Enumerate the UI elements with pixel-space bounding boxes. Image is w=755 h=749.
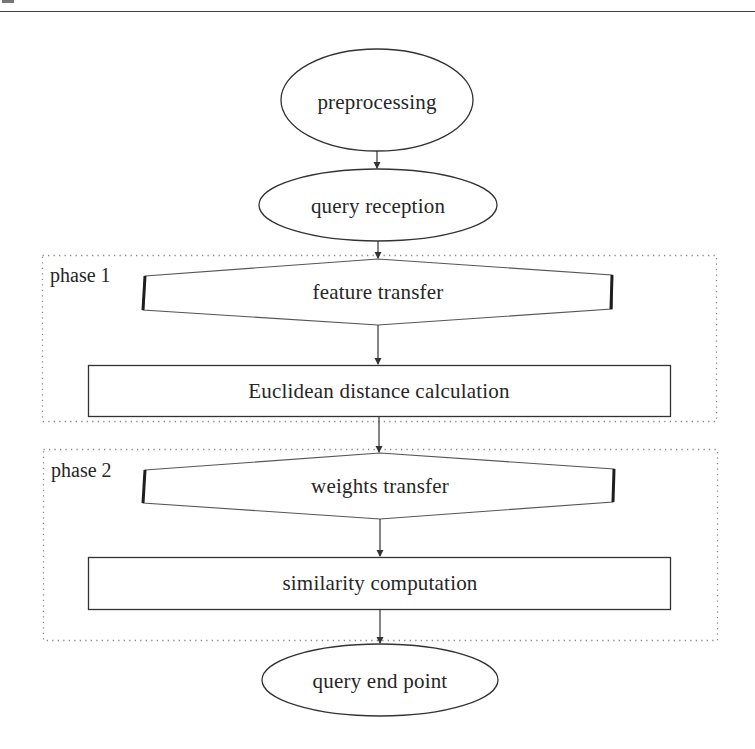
- weights-transfer-left-edge: [143, 470, 145, 503]
- node-query-reception-label: query reception: [311, 194, 445, 219]
- node-weights-transfer-label: weights transfer: [311, 474, 449, 499]
- feature-transfer-left-edge: [143, 276, 145, 310]
- feature-transfer-right-edge: [611, 275, 612, 309]
- node-euclidean-label: Euclidean distance calculation: [248, 379, 509, 404]
- phase2-label: phase 2: [51, 459, 112, 482]
- phase1-label: phase 1: [50, 264, 111, 287]
- node-feature-transfer-label: feature transfer: [313, 280, 444, 305]
- node-query-end-label: query end point: [313, 669, 448, 694]
- weights-transfer-right-edge: [613, 469, 614, 502]
- node-preprocessing-label: preprocessing: [317, 90, 436, 115]
- node-similarity-label: similarity computation: [282, 571, 477, 596]
